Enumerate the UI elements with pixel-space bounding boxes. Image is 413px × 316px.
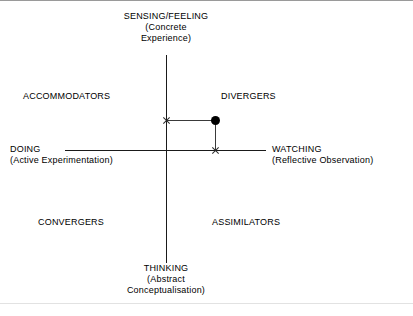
pole-left-title: DOING: [10, 144, 113, 155]
pole-top-subtitle-line2: Experience): [124, 33, 209, 44]
frame-bottom-border: [0, 303, 413, 304]
plotted-result-point: [211, 116, 220, 125]
axis-pole-label-right: WATCHING (Reflective Observation): [272, 144, 373, 166]
kolb-learning-styles-diagram: SENSING/FEELING (Concrete Experience) TH…: [0, 0, 413, 316]
quadrant-label-divergers: DIVERGERS: [221, 91, 276, 102]
pole-bottom-subtitle-line2: Conceptualisation): [127, 285, 205, 296]
axis-pole-label-top: SENSING/FEELING (Concrete Experience): [124, 11, 209, 44]
axis-pole-label-bottom: THINKING (Abstract Conceptualisation): [127, 263, 205, 296]
vertical-axis: [166, 55, 167, 263]
projection-marker-vertical-axis: [162, 116, 171, 125]
frame-top-border: [0, 0, 413, 1]
quadrant-label-accommodators: ACCOMMODATORS: [23, 91, 110, 102]
pole-top-title: SENSING/FEELING: [124, 11, 209, 22]
pole-bottom-title: THINKING: [127, 263, 205, 274]
pole-top-subtitle-line1: (Concrete: [124, 22, 209, 33]
quadrant-label-assimilators: ASSIMILATORS: [212, 217, 280, 228]
axis-pole-label-left: DOING (Active Experimentation): [10, 144, 113, 166]
pole-left-subtitle-line1: (Active Experimentation): [10, 155, 113, 166]
pole-right-subtitle-line1: (Reflective Observation): [272, 155, 373, 166]
projection-marker-horizontal-axis: [211, 146, 220, 155]
pole-bottom-subtitle-line1: (Abstract: [127, 274, 205, 285]
quadrant-label-convergers: CONVERGERS: [38, 217, 104, 228]
projection-line-horizontal: [166, 120, 215, 121]
pole-right-title: WATCHING: [272, 144, 373, 155]
